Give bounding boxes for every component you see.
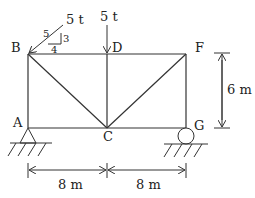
slope-triangle <box>48 33 61 44</box>
slope-rise-label: 3 <box>63 33 69 44</box>
slope-hyp-label: 5 <box>43 28 49 39</box>
span-left-label: 8 m <box>58 177 83 192</box>
pin-support-A <box>8 128 52 156</box>
member-FC <box>107 54 186 128</box>
node-label-F: F <box>195 40 204 55</box>
span-right-label: 8 m <box>136 177 161 192</box>
node-label-B: B <box>11 40 21 55</box>
node-label-A: A <box>12 115 23 130</box>
slope-run-label: 4 <box>51 44 57 55</box>
vertical-load-label: 5 t <box>100 9 118 24</box>
member-BC <box>28 54 107 128</box>
span-dimensions <box>28 163 186 178</box>
height-label: 6 m <box>227 82 252 97</box>
truss-diagram: 5 t 5 3 4 5 t B D F A C G 6 m 8 m 8 m <box>0 0 255 198</box>
node-label-D: D <box>112 40 122 55</box>
node-label-C: C <box>103 129 113 144</box>
truss-members <box>28 54 186 128</box>
inclined-load-label: 5 t <box>66 12 84 27</box>
node-label-G: G <box>194 118 204 133</box>
